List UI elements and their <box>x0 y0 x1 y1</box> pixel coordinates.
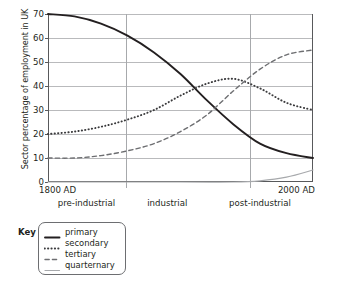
legend-swatch-quarternary <box>44 260 61 269</box>
y-tick-label: 40 <box>33 81 44 91</box>
legend-entry-primary: primary <box>44 226 115 237</box>
legend-swatch-secondary <box>44 238 61 247</box>
y-tick-label: 20 <box>33 129 44 139</box>
legend-swatch-primary <box>44 227 61 236</box>
plot-area: 010203040506070 1800 AD 2000 AD pre-indu… <box>48 14 313 182</box>
x-axis-start-label: 1800 AD <box>39 185 76 195</box>
series-line-primary <box>48 14 313 158</box>
y-axis-title: Sector percentage of employment in UK <box>20 0 30 184</box>
series-line-secondary <box>48 79 313 134</box>
legend-label: primary <box>65 227 98 237</box>
employment-sector-line-chart: Sector percentage of employment in UK 01… <box>0 0 343 284</box>
era-label: post-industrial <box>229 198 291 208</box>
legend-label: tertiary <box>65 249 96 259</box>
legend-label: secondary <box>65 238 108 248</box>
era-label: industrial <box>147 198 187 208</box>
legend-entry-tertiary: tertiary <box>44 248 115 259</box>
legend-title: Key <box>18 222 38 237</box>
x-axis-end-label: 2000 AD <box>278 185 315 195</box>
series-curves <box>48 14 313 182</box>
legend-entry-quarternary: quarternary <box>44 259 115 270</box>
y-tick-label: 70 <box>33 9 44 19</box>
y-tick-label: 50 <box>33 57 44 67</box>
legend-swatch-tertiary <box>44 249 61 258</box>
series-line-tertiary <box>48 50 313 158</box>
y-tick-label: 60 <box>33 33 44 43</box>
legend-box: primarysecondarytertiaryquarternary <box>38 222 126 275</box>
y-tick-label: 10 <box>33 153 44 163</box>
series-line-quarternary <box>48 170 313 182</box>
era-label: pre-industrial <box>58 198 115 208</box>
y-tick-label: 30 <box>33 105 44 115</box>
legend-label: quarternary <box>65 260 115 270</box>
legend: Key primarysecondarytertiaryquarternary <box>18 222 126 275</box>
legend-entry-secondary: secondary <box>44 237 115 248</box>
